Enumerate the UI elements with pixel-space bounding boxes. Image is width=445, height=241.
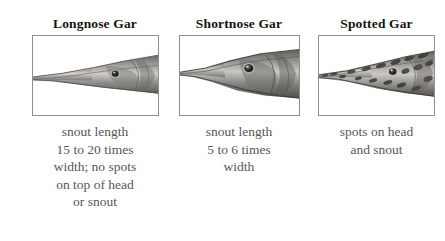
panel-shortnose-gar: Shortnose Gar <box>174 0 305 176</box>
photo-frame-shortnose-gar <box>179 35 300 116</box>
photo-frame-spotted-gar <box>318 35 435 116</box>
shortnose-gar-head-photo <box>180 36 299 115</box>
panel-title-longnose-gar: Longnose Gar <box>53 17 137 31</box>
caption-longnose-gar: snout length 15 to 20 times width; no sp… <box>54 123 137 211</box>
photo-frame-longnose-gar <box>32 35 159 116</box>
panel-title-spotted-gar: Spotted Gar <box>340 17 413 31</box>
gar-species-comparison-figure: Longnose Gar <box>0 0 445 241</box>
panel-longnose-gar: Longnose Gar <box>26 0 165 211</box>
panel-title-shortnose-gar: Shortnose Gar <box>196 17 282 31</box>
caption-shortnose-gar: snout length 5 to 6 times width <box>206 123 272 176</box>
panel-spotted-gar: Spotted Gar <box>314 0 440 158</box>
longnose-gar-head-photo <box>33 36 158 115</box>
spotted-gar-head-photo <box>319 36 434 115</box>
caption-spotted-gar: spots on head and snout <box>340 123 414 158</box>
